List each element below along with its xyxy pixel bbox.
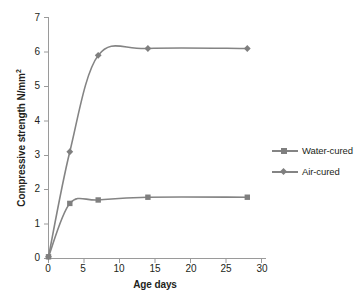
x-axis-ticks xyxy=(49,259,262,264)
series-markers-water-cured xyxy=(46,195,250,260)
chart-legend: Water-cured Air-cured xyxy=(272,140,360,182)
data-point-marker xyxy=(66,148,73,155)
data-point-marker xyxy=(96,197,101,202)
legend-label-water-cured: Water-cured xyxy=(302,145,353,156)
data-point-marker xyxy=(245,195,250,200)
legend-label-air-cured: Air-cured xyxy=(302,166,340,177)
series-markers-air-cured xyxy=(45,45,251,260)
data-point-marker xyxy=(244,45,251,52)
data-point-marker xyxy=(145,195,150,200)
legend-item-air-cured: Air-cured xyxy=(272,161,360,182)
data-point-marker xyxy=(67,201,72,206)
legend-item-water-cured: Water-cured xyxy=(272,140,360,161)
data-point-marker xyxy=(46,254,51,259)
series-line-water-cured xyxy=(49,197,248,257)
diamond-marker-icon xyxy=(272,166,298,178)
data-point-marker xyxy=(145,45,152,52)
chart-container: Compressive strength N/mm2 7 6 5 4 3 2 1… xyxy=(0,0,361,304)
y-axis-ticks xyxy=(44,18,49,259)
series-line-air-cured xyxy=(49,46,248,257)
square-marker-icon xyxy=(272,145,298,157)
